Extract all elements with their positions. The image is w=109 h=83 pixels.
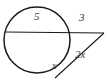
label-external-secant-3: 3 <box>79 12 85 23</box>
label-external-segment-2x: 2x <box>75 49 85 60</box>
geometry-figure: 5 3 2x x <box>0 0 109 83</box>
label-lower-arc-x: x <box>52 61 56 71</box>
label-upper-arc-5: 5 <box>34 11 40 22</box>
secant-horizontal-line <box>5 32 104 33</box>
